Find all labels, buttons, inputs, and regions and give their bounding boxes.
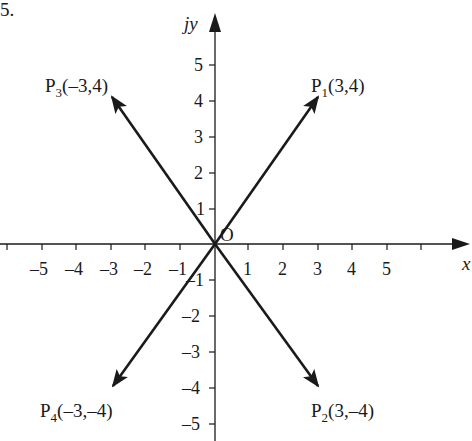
figure-number: 5. <box>0 0 14 20</box>
point-label-p2: P2(3,–4) <box>311 400 374 425</box>
x-tick-label: 4 <box>347 259 356 279</box>
y-tick-label: 2 <box>194 163 203 183</box>
x-tick-label: –1 <box>168 259 187 279</box>
y-tick-label: 3 <box>194 127 203 147</box>
point-label-p3: P3(–3,4) <box>45 75 108 100</box>
x-tick-label: 2 <box>278 259 287 279</box>
x-tick-label: –5 <box>29 259 48 279</box>
y-axis-arrow-icon <box>209 13 221 32</box>
x-tick-label: –4 <box>64 259 83 279</box>
x-tick-label: –2 <box>133 259 152 279</box>
vector-p1 <box>215 97 318 244</box>
phasor-diagram: 5. –5 –4 –3 –2 –1 1 2 3 4 5 x <box>0 0 472 441</box>
vector-p2 <box>215 244 318 386</box>
x-tick-label: 1 <box>243 259 252 279</box>
y-axis-label: jy <box>181 13 198 34</box>
y-tick-label: –4 <box>181 378 200 398</box>
x-tick-label: –3 <box>99 259 118 279</box>
y-axis: 5 4 3 2 1 –1 –2 –3 –4 –5 jy <box>181 13 221 441</box>
y-tick-label: –3 <box>181 342 200 362</box>
y-tick-label: 4 <box>194 91 203 111</box>
y-tick-label: 5 <box>194 55 203 75</box>
x-tick-label: 5 <box>382 259 391 279</box>
point-label-p4: P4(–3,–4) <box>40 400 112 425</box>
x-axis-label: x <box>461 253 471 274</box>
x-tick-label: 3 <box>313 259 322 279</box>
point-label-p1: P1(3,4) <box>311 75 364 100</box>
y-tick-label: –5 <box>181 414 200 434</box>
x-axis-arrow-icon <box>452 238 470 250</box>
y-tick-label: –2 <box>181 306 200 326</box>
y-tick-label: 1 <box>196 199 205 219</box>
